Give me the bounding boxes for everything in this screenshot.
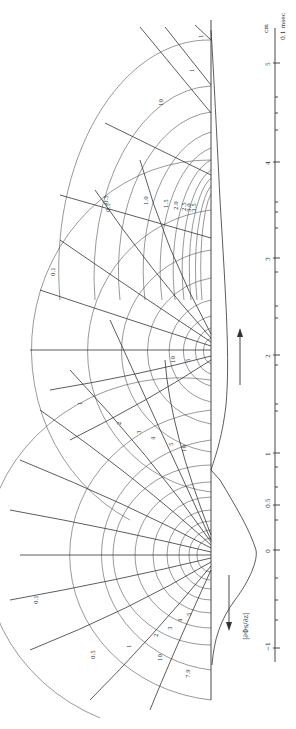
contour-label: 4 [150, 436, 156, 440]
contour-label: 5 [185, 358, 191, 362]
contour-label: 5 [186, 612, 192, 616]
upper-equipotentials [59, 40, 211, 300]
contour-label: 2 [153, 634, 159, 638]
contour-label: 2.0 [173, 201, 179, 210]
contour-label: 10 [158, 99, 164, 106]
contour-label: 1.5 [163, 199, 169, 208]
contour-label: 1.0 [143, 196, 149, 205]
contour-label: 3 [167, 626, 173, 630]
contour-labels: 11100.51.01.52.02.53.03.50.50.1105123451… [33, 35, 204, 679]
contour-label: 1 [126, 645, 132, 649]
source-equipotentials [0, 378, 211, 718]
scale-tick-label: 3 [264, 257, 271, 261]
profile-curve [211, 30, 256, 665]
scale-tick-label: 2 [264, 354, 271, 358]
scale-tick-label: 5 [264, 62, 271, 66]
contour-label: 2 [116, 422, 122, 426]
scale-bar: 543210.50−1 [264, 28, 280, 662]
field-line-diagram: 543210.50−1 cm 0.1 msec |∂Φs/∂z| 11100.5… [0, 0, 296, 729]
contour-label: 3.5 [191, 203, 197, 212]
contour-label: 0.5 [105, 203, 111, 212]
sink-equipotentials [31, 160, 211, 520]
contour-label: 10 [170, 356, 176, 363]
contour-label: 1 [198, 35, 204, 39]
contour-label: 1 [77, 402, 83, 406]
contour-label: 4 [177, 618, 183, 622]
contour-label: 10 [181, 445, 187, 452]
contour-label: 0.1 [50, 267, 56, 276]
profile-label: |∂Φs/∂z| [242, 613, 250, 640]
contour-label: 7.9 [185, 669, 191, 678]
scale-tick-label: 4 [264, 161, 271, 165]
scale-tick-label: 0 [264, 549, 271, 553]
scale-tick-label: −1 [264, 642, 271, 651]
contour-label: 3 [136, 430, 142, 434]
scale-unit-label: cm [262, 24, 269, 33]
scale-secondary-label: 0.1 msec [279, 12, 286, 40]
contour-label: 5 [168, 442, 174, 446]
contour-label: 0.5 [90, 650, 96, 659]
direction-arrows [226, 328, 243, 631]
source-field-lines [10, 320, 211, 710]
contour-label: 0.1 [33, 595, 39, 604]
contour-label: 0.5 [103, 195, 109, 204]
contour-label: 1 [189, 69, 195, 73]
contour-label: 10 [157, 654, 163, 661]
scale-tick-label: 1 [264, 452, 271, 456]
scale-tick-label: 0.5 [264, 498, 271, 508]
